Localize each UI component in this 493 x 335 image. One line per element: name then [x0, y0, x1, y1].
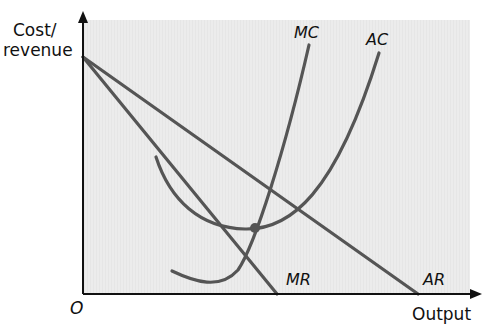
ar-label: AR: [422, 270, 445, 289]
mc-ac-intersection-point: [250, 223, 260, 233]
plot-background: [84, 20, 470, 294]
x-axis-label: Output: [412, 304, 471, 324]
y-axis-arrow-icon: [78, 11, 88, 23]
y-axis-label-line2: revenue: [3, 40, 73, 60]
x-axis-arrow-icon: [470, 289, 482, 299]
mr-label: MR: [286, 270, 311, 289]
origin-label: O: [70, 298, 83, 318]
cost-revenue-diagram: Cost/ revenue O Output MC AC MR AR: [0, 0, 493, 335]
y-axis-label-line1: Cost/: [13, 20, 57, 40]
mc-label: MC: [294, 23, 320, 42]
ac-label: AC: [365, 30, 389, 49]
